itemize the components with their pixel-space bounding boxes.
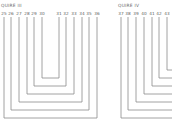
conjugate-pair-27-34 (19, 17, 82, 102)
leaf-line-38 (128, 17, 172, 110)
conjugate-pair-29-32 (34, 17, 66, 86)
leaf-label-29: 29 (31, 11, 37, 16)
leaf-label-26: 26 (8, 11, 14, 16)
leaf-label-42: 42 (156, 11, 162, 16)
leaf-line-40 (144, 17, 172, 94)
conjugate-pair-30-31 (42, 17, 59, 78)
leaf-label-40: 40 (141, 11, 147, 16)
leaf-line-43 (167, 17, 172, 70)
leaf-label-34: 34 (79, 11, 85, 16)
leaf-label-36: 36 (94, 11, 100, 16)
leaf-label-39: 39 (133, 11, 139, 16)
leaf-line-37 (121, 17, 172, 118)
quire-iv-title: QUIRE IV (118, 3, 139, 8)
leaf-label-32: 32 (63, 11, 69, 16)
conjugate-pair-25-36 (4, 17, 97, 118)
leaf-line-42 (159, 17, 172, 78)
leaf-label-43: 43 (164, 11, 170, 16)
leaf-label-28: 28 (24, 11, 30, 16)
leaf-label-33: 33 (71, 11, 77, 16)
conjugate-pair-26-35 (11, 17, 89, 110)
leaf-label-41: 41 (149, 11, 155, 16)
leaf-label-35: 35 (86, 11, 92, 16)
leaf-label-25: 25 (1, 11, 7, 16)
leaf-line-41 (152, 17, 172, 86)
leaf-label-37: 37 (118, 11, 124, 16)
leaf-label-27: 27 (16, 11, 22, 16)
leaf-label-30: 30 (39, 11, 45, 16)
quire-iii-title: QUIRE III (1, 3, 22, 8)
quire-iii-diagram: QUIRE III 25 26 27 28 29 30 31 32 33 34 … (1, 3, 100, 118)
leaf-label-38: 38 (125, 11, 131, 16)
quire-collation-diagram: QUIRE III 25 26 27 28 29 30 31 32 33 34 … (0, 0, 172, 127)
leaf-label-31: 31 (56, 11, 62, 16)
quire-iv-diagram: QUIRE IV 37 38 39 40 41 42 43 (118, 3, 172, 118)
